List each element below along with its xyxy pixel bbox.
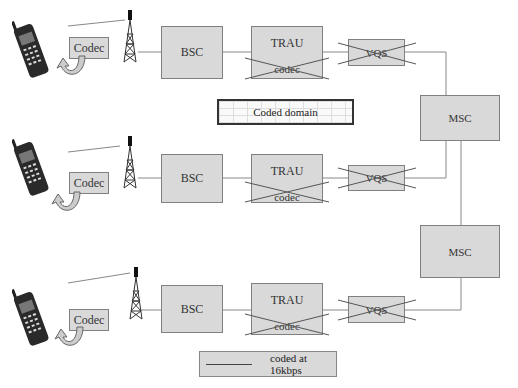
vqs-box: VQS: [348, 39, 405, 66]
trau-box: TRAU codec: [251, 26, 323, 79]
bsc-box: BSC: [161, 26, 223, 79]
trau-label: TRAU: [271, 164, 304, 179]
trau-label: TRAU: [271, 293, 304, 308]
antenna-tower-icon: [122, 136, 138, 190]
legend: coded at 16kbps: [199, 351, 337, 377]
vqs-box: VQS: [348, 296, 405, 323]
msc-box: MSC: [420, 95, 500, 141]
mobile-phone-icon: [12, 282, 54, 348]
bsc-box: BSC: [161, 285, 223, 333]
msc-box: MSC: [420, 225, 500, 278]
trau-codec-label: codec: [274, 320, 300, 332]
curved-arrow-icon: [50, 190, 86, 218]
coded-domain-label: Coded domain: [217, 99, 354, 125]
legend-line-swatch: [206, 364, 252, 365]
curved-arrow-icon: [53, 325, 89, 353]
antenna-tower-icon: [128, 267, 144, 321]
trau-box: TRAU codec: [251, 283, 323, 335]
mobile-phone-icon: [12, 132, 54, 198]
trau-label: TRAU: [271, 36, 304, 51]
trau-box: TRAU codec: [251, 154, 323, 203]
trau-codec-label: codec: [274, 191, 300, 203]
bsc-box: BSC: [161, 154, 223, 203]
vqs-box: VQS: [348, 165, 405, 191]
mobile-phone-icon: [12, 14, 54, 80]
legend-label: coded at 16kbps: [270, 352, 336, 376]
antenna-tower-icon: [122, 10, 138, 64]
curved-arrow-icon: [55, 54, 91, 82]
trau-codec-label: codec: [274, 63, 300, 75]
